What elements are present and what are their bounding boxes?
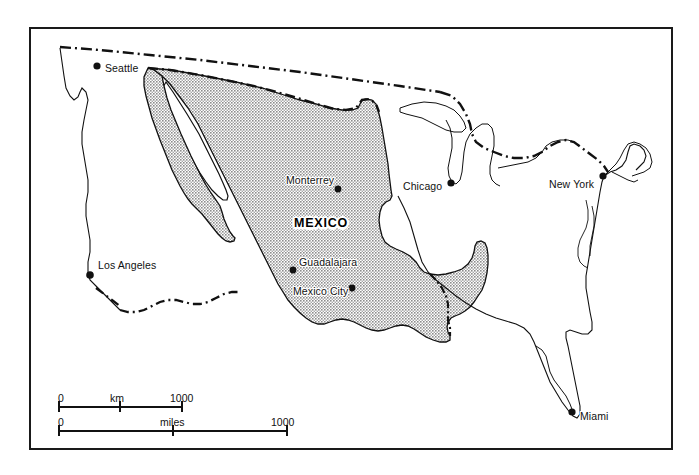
city-label-new-york: New York (549, 178, 594, 190)
chesapeake-detail (578, 200, 594, 268)
scale-bar-miles: 0 miles 1000 (58, 416, 288, 436)
us-canada-border-east (440, 92, 608, 172)
new-england-outline (604, 142, 652, 182)
map-figure: MEXICO Seattle Los Angeles Monterrey Gua… (0, 0, 699, 475)
scale-miles-tick-start (58, 425, 60, 436)
us-mexico-border-rio-grande (120, 292, 240, 312)
city-dot-guadalajara (290, 267, 297, 274)
scale-km-tick-start (58, 401, 60, 412)
city-label-seattle: Seattle (105, 62, 138, 74)
city-dot-los-angeles (86, 271, 94, 279)
city-dot-monterrey (335, 186, 342, 193)
scale-km-tick-mid (119, 401, 121, 412)
city-label-monterrey: Monterrey (286, 174, 334, 186)
florida-detail (536, 346, 573, 412)
scale-km-tick-end (181, 401, 183, 412)
great-lakes-superior (400, 102, 466, 132)
city-dot-chicago (447, 179, 454, 186)
map-scale-bars: 0 km 1000 0 miles 1000 (58, 392, 288, 436)
city-label-mexico-city: Mexico City (293, 285, 348, 297)
scale-miles-tick-mid (172, 425, 174, 436)
city-dot-mexico-city (349, 285, 356, 292)
great-lakes-michigan-huron (446, 120, 500, 186)
southwest-border-segment (96, 288, 120, 306)
city-dot-seattle (93, 62, 100, 69)
city-label-los-angeles: Los Angeles (98, 259, 156, 271)
city-label-guadalajara: Guadalajara (299, 256, 357, 268)
city-label-miami: Miami (580, 410, 609, 422)
scale-bar-km: 0 km 1000 (58, 392, 288, 412)
city-dot-new-york (599, 172, 606, 179)
city-label-chicago: Chicago (403, 180, 442, 192)
scale-km-bar-line (58, 406, 183, 408)
city-dot-miami (568, 408, 575, 415)
scale-miles-tick-end (286, 425, 288, 436)
country-label-mexico: MEXICO (294, 216, 348, 230)
